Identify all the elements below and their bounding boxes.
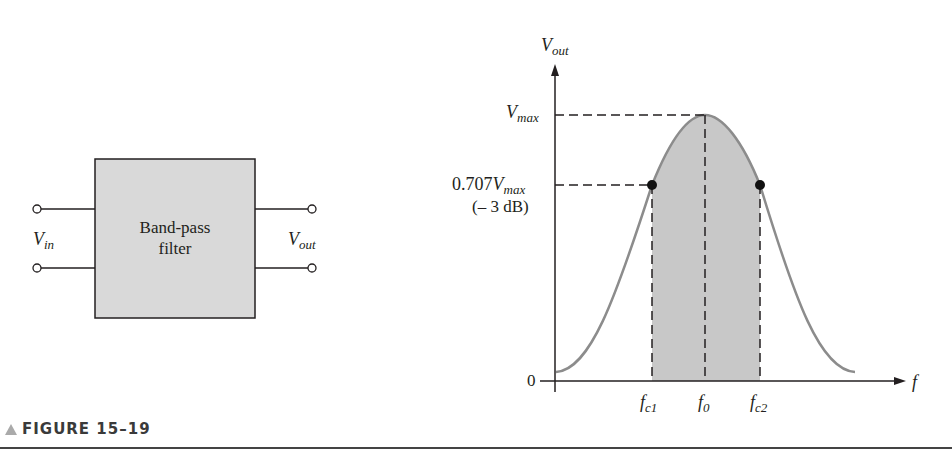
- x-axis-label: f: [912, 372, 920, 392]
- vmax-label: Vmax: [506, 102, 539, 125]
- input-terminal-top-icon: [33, 205, 41, 213]
- figure-caption: FIGURE 15–19: [22, 420, 151, 438]
- y-axis-label: Vout: [541, 35, 569, 58]
- x-axis-arrow-icon: [894, 377, 906, 385]
- output-terminal-top-icon: [308, 205, 316, 213]
- level-label: 0.707Vmax: [452, 174, 525, 197]
- fc2-label: fc2: [750, 392, 768, 415]
- box-label-line2: filter: [158, 239, 191, 258]
- caption-rule: [0, 447, 952, 449]
- level-db-label: (– 3 dB): [472, 197, 529, 216]
- f0-label: f0: [698, 392, 710, 415]
- y-axis-arrow-icon: [551, 64, 559, 76]
- zero-label: 0: [527, 371, 536, 390]
- output-terminal-bottom-icon: [308, 264, 316, 272]
- figure-canvas: Band-pass filter Vin Vout Vout Vmax 0.70…: [0, 0, 952, 465]
- response-graph: Vout Vmax 0.707Vmax (– 3 dB) 0 fc1 f0 fc…: [452, 35, 920, 415]
- fc1-label: fc1: [640, 392, 657, 415]
- output-label: Vout: [288, 229, 316, 252]
- fc1-point-icon: [647, 180, 657, 190]
- input-label: Vin: [33, 229, 54, 252]
- passband-shade: [652, 115, 760, 381]
- caption-triangle-icon: [5, 424, 17, 435]
- fc2-point-icon: [755, 180, 765, 190]
- block-diagram: Band-pass filter Vin Vout: [33, 159, 316, 318]
- input-terminal-bottom-icon: [33, 264, 41, 272]
- box-label-line1: Band-pass: [140, 218, 211, 237]
